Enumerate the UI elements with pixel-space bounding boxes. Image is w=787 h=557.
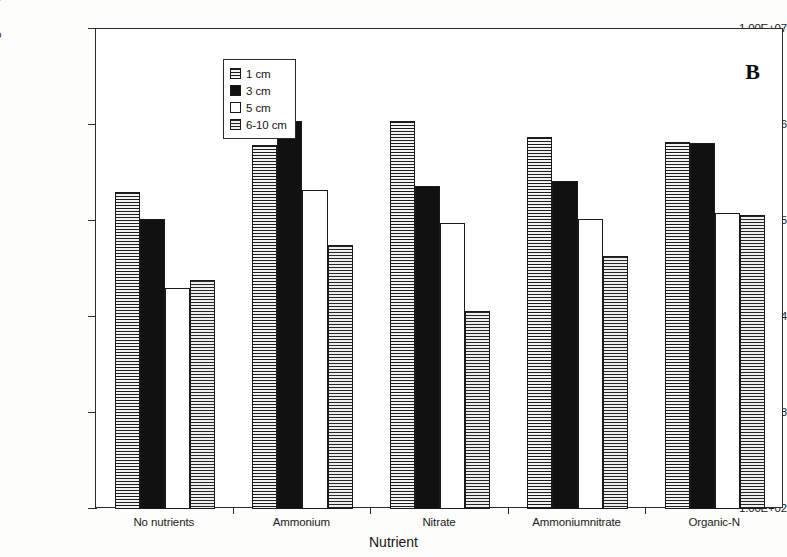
legend-label: 6-10 cm (246, 119, 287, 131)
x-axis-tick-label: Nitrate (422, 516, 455, 528)
bar (715, 213, 740, 509)
legend-label: 5 cm (246, 102, 271, 114)
panel-label: B (745, 59, 760, 85)
chart-legend: 1 cm 3 cm 5 cm 6-10 cm (223, 59, 296, 139)
bar (552, 181, 577, 509)
bar (190, 280, 215, 509)
x-axis-tick-label: Ammonium (273, 516, 330, 528)
legend-swatch-3cm-icon (230, 85, 241, 96)
legend-swatch-1cm-icon (230, 68, 241, 79)
bar (115, 192, 140, 509)
x-axis-title: Nutrient (0, 534, 787, 550)
bar (328, 245, 353, 509)
legend-swatch-6-10cm-icon (230, 119, 241, 130)
bar (665, 142, 690, 509)
x-axis-tick-label: Ammoniumnitrate (532, 516, 621, 528)
legend-swatch-5cm-icon (230, 102, 241, 113)
bar (578, 219, 603, 509)
bar (165, 288, 190, 509)
bar (390, 121, 415, 509)
x-axis-tick-label: Organic-N (688, 516, 740, 528)
legend-item: 3 cm (230, 82, 287, 99)
x-axis-tick-mark (233, 508, 234, 514)
y-axis-tick-mark (88, 508, 97, 509)
x-axis-tick-mark (370, 508, 371, 514)
legend-item: 6-10 cm (230, 116, 287, 133)
bar (252, 145, 277, 509)
y-axis-title: Oil-degrading bacteria (cells/g sediment… (0, 0, 8, 120)
bar (527, 137, 552, 509)
legend-item: 5 cm (230, 99, 287, 116)
plot-area: 1 cm 3 cm 5 cm 6-10 cm B (95, 28, 783, 508)
bar (140, 219, 165, 509)
bar (440, 223, 465, 509)
bar (465, 311, 490, 509)
bar (302, 190, 327, 509)
bar (415, 186, 440, 509)
bar (277, 121, 302, 509)
x-axis-tick-label: No nutrients (133, 516, 194, 528)
x-axis-tick-mark (645, 508, 646, 514)
x-axis-tick-mark (508, 508, 509, 514)
legend-item: 1 cm (230, 65, 287, 82)
bar (603, 256, 628, 509)
bar (690, 143, 715, 509)
legend-label: 3 cm (246, 85, 271, 97)
bar (740, 215, 765, 509)
legend-label: 1 cm (246, 68, 271, 80)
chart-page: Oil-degrading bacteria (cells/g sediment… (0, 0, 787, 557)
